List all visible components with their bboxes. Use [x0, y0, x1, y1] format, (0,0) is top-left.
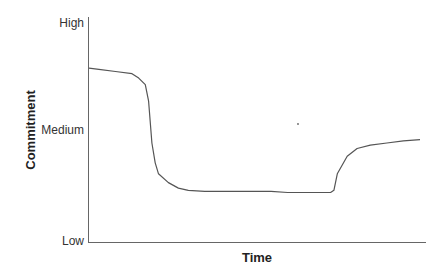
- commitment-line: [89, 68, 420, 192]
- stray-dot: [297, 123, 299, 125]
- y-tick-high: High: [24, 16, 84, 30]
- x-axis-label: Time: [207, 251, 307, 265]
- y-tick-low: Low: [24, 234, 84, 248]
- y-axis-label: Commitment: [24, 80, 38, 180]
